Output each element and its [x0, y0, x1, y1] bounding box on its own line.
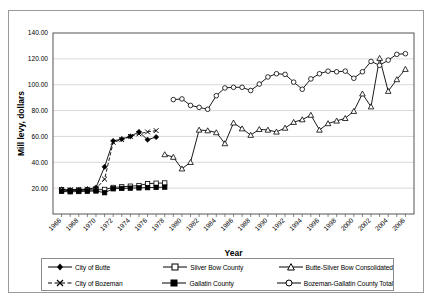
y-tick-label: 140.00: [28, 29, 49, 36]
x-tick-label: 1978: [150, 217, 166, 233]
x-tick-label: 1984: [202, 217, 218, 233]
legend-label: Silver Bow County: [188, 264, 243, 271]
data-point: [369, 59, 374, 64]
data-point: [360, 91, 366, 96]
data-point: [266, 75, 271, 80]
data-point: [120, 186, 124, 190]
legend-item-silver-bow-county: Silver Bow County: [162, 259, 277, 275]
data-point: [326, 69, 331, 74]
legend-label: Bozeman-Gallatin County Total: [302, 280, 393, 287]
data-point: [395, 52, 400, 57]
data-point: [352, 76, 357, 81]
data-point: [239, 126, 245, 131]
plot-area: 20.0040.0060.0080.00100.00120.00140.0019…: [9, 11, 425, 294]
data-point: [274, 71, 279, 76]
x-tick-label: 1968: [64, 217, 80, 233]
legend-item-gallatin-county: Gallatin County: [161, 275, 275, 291]
data-point: [77, 189, 81, 193]
x-tick-label: 1976: [133, 217, 149, 233]
data-point: [309, 77, 314, 82]
x-tick-label: 2004: [374, 217, 390, 233]
data-point: [334, 69, 339, 74]
data-point: [137, 186, 141, 190]
y-tick-label: 20.00: [31, 185, 48, 192]
x-tick-label: 1998: [322, 217, 338, 233]
data-point: [180, 97, 185, 102]
data-point: [59, 189, 63, 193]
x-tick-label: 2000: [339, 217, 355, 233]
data-point: [403, 51, 408, 56]
data-point: [299, 117, 305, 122]
data-point: [308, 112, 314, 117]
data-point: [111, 187, 115, 191]
x-tick-label: 1972: [99, 217, 115, 233]
y-tick-label: 120.00: [28, 55, 49, 62]
x-tick-label: 1988: [236, 217, 252, 233]
data-point: [377, 63, 382, 68]
x-tick-label: 1990: [253, 217, 269, 233]
data-point: [282, 125, 288, 130]
x-tick-label: 2006: [391, 217, 407, 233]
data-point: [197, 105, 202, 110]
y-axis-title: Mill levy, dollars: [16, 91, 26, 156]
data-point: [196, 127, 202, 132]
data-point: [291, 80, 296, 85]
legend-item-city-of-bozeman: City of Bozeman: [42, 275, 161, 291]
y-tick-label: 60.00: [31, 133, 48, 140]
open-triangle-icon: [278, 262, 304, 272]
series-line: [62, 131, 157, 190]
data-point: [205, 107, 210, 112]
data-point: [300, 87, 305, 92]
data-point: [231, 120, 237, 125]
legend-label: City of Butte: [73, 264, 110, 271]
x-tick-label: 1966: [47, 217, 63, 233]
y-tick-label: 100.00: [28, 81, 49, 88]
filled-diamond-icon: [47, 262, 73, 272]
data-point: [214, 93, 219, 98]
data-point: [94, 189, 98, 193]
legend-row-2: City of Bozeman Gallatin County Bozeman-…: [42, 275, 393, 291]
x-tick-label: 1970: [81, 217, 97, 233]
data-point: [145, 185, 149, 189]
data-point: [102, 190, 106, 194]
series-city-of-bozeman: [59, 128, 158, 192]
data-point: [162, 152, 168, 157]
data-point: [102, 164, 107, 169]
data-point: [231, 85, 236, 90]
data-point: [68, 190, 72, 194]
data-point: [403, 66, 409, 71]
data-point: [368, 104, 374, 109]
data-point: [343, 69, 348, 74]
data-point: [102, 177, 107, 182]
data-point: [85, 189, 89, 193]
x-tick-label: 1996: [305, 217, 321, 233]
data-point: [360, 69, 365, 74]
data-point: [163, 185, 167, 189]
data-point: [154, 134, 159, 139]
legend-label: Gallatin County: [187, 280, 233, 287]
y-tick-label: 40.00: [31, 159, 48, 166]
legend-row-1: City of Butte Silver Bow County Butte-Si…: [42, 259, 393, 275]
x-tick-label: 1974: [116, 217, 132, 233]
x-tick-label: 1992: [270, 217, 286, 233]
x-tick-label: 1982: [184, 217, 200, 233]
legend-item-city-of-butte: City of Butte: [42, 259, 162, 275]
legend-item-bozeman-gallatin-county-total: Bozeman-Gallatin County Total: [276, 275, 393, 291]
legend-item-butte-silver-bow-consolidated: Butte-Silver Bow Consolidated: [278, 259, 393, 275]
x-tick-label: 1994: [288, 217, 304, 233]
legend-label: Butte-Silver Bow Consolidated: [304, 264, 393, 271]
chart-container: 20.0040.0060.0080.00100.00120.00140.0019…: [8, 10, 424, 293]
y-tick-label: 80.00: [31, 107, 48, 114]
data-point: [171, 97, 176, 102]
data-point: [317, 71, 322, 76]
data-point: [257, 82, 262, 87]
x-tick-label: 1980: [167, 217, 183, 233]
x-tick-label: 1986: [219, 217, 235, 233]
data-point: [386, 58, 391, 63]
data-point: [223, 86, 228, 91]
data-point: [317, 127, 323, 132]
open-square-icon: [162, 262, 188, 272]
legend-label: City of Bozeman: [73, 280, 123, 287]
data-point: [128, 186, 132, 190]
data-point: [188, 103, 193, 108]
